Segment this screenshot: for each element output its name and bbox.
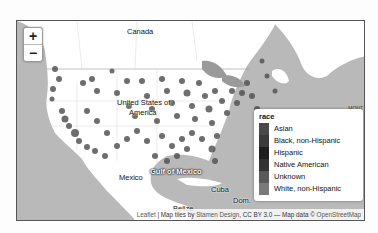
legend-item-asian: Asian — [274, 123, 341, 135]
attribution: Leaflet | Map tiles by Stamen Design, CC… — [134, 209, 364, 220]
legend-item-hispanic: Hispanic — [274, 147, 341, 159]
legend-title: race — [259, 112, 274, 121]
label-canada: Canada — [127, 27, 153, 36]
zoom-control: + − — [23, 27, 43, 62]
leaflet-link[interactable]: Leaflet — [137, 211, 156, 218]
label-mexico: Mexico — [119, 173, 143, 182]
zoom-in-button[interactable]: + — [24, 28, 42, 44]
label-dom: Dom. — [233, 196, 251, 205]
legend-item-white: White, non-Hispanic — [274, 183, 341, 195]
attribution-sep: | Map tiles by — [156, 211, 196, 218]
osm-link[interactable]: OpenStreetMap — [317, 211, 361, 218]
legend-swatch-white — [259, 183, 269, 195]
legend-swatch-black — [259, 135, 269, 147]
label-cuba: Cuba — [211, 185, 229, 194]
legend-swatch-unknown — [259, 171, 269, 183]
map-container[interactable]: + − Canada United States of America Gulf… — [16, 20, 365, 221]
legend-item-native-american: Native American — [274, 159, 341, 171]
label-gulf-of-mexico: Gulf of Mexico — [150, 167, 202, 176]
label-usa-line2: America — [129, 108, 157, 117]
legend-item-black: Black, non-Hispanic — [274, 135, 341, 147]
legend-color-bar — [259, 123, 269, 195]
stamen-link[interactable]: Stamen Design — [196, 211, 239, 218]
zoom-out-button[interactable]: − — [24, 44, 42, 61]
label-usa-line1: United States of — [117, 98, 170, 107]
legend-swatch-asian — [259, 123, 269, 135]
legend: race Asian Black, non-Hispanic Hispanic … — [254, 109, 363, 201]
legend-swatch-hispanic — [259, 147, 269, 159]
legend-item-unknown: Unknown — [274, 171, 341, 183]
cc-license: , CC BY 3.0 — [239, 211, 272, 218]
legend-swatch-native-american — [259, 159, 269, 171]
attribution-dash: — Map data © — [272, 211, 316, 218]
